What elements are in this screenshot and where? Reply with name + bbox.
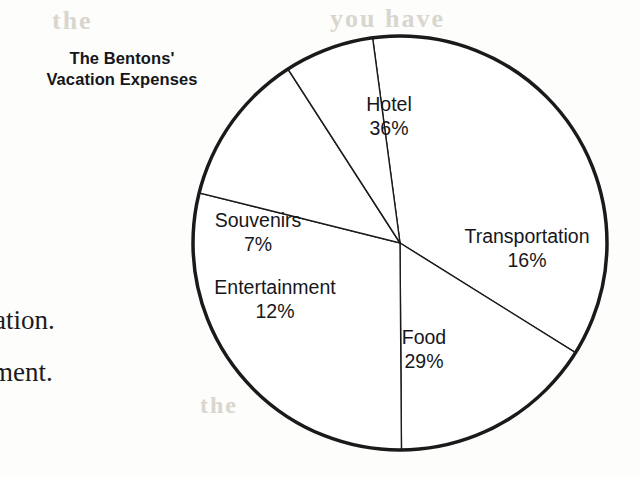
slice-label-entertainment: Entertainment12% [214,276,335,324]
slice-label-percent: 16% [464,249,589,273]
slice-label-percent: 29% [402,350,446,374]
slice-label-hotel: Hotel36% [366,93,412,141]
slice-label-name: Entertainment [214,276,335,298]
scanned-page: the you have c b the The Bentons' Vacati… [0,0,639,478]
slice-label-name: Souvenirs [215,209,302,231]
slice-label-food: Food29% [402,326,446,374]
slice-label-percent: 36% [366,117,412,141]
slice-label-percent: 7% [215,233,302,257]
slice-label-percent: 12% [214,300,335,324]
slice-label-souvenirs: Souvenirs7% [215,209,302,257]
slice-label-name: Hotel [366,93,412,115]
slice-label-name: Food [402,326,446,348]
slice-label-transportation: Transportation16% [464,225,589,273]
slice-label-name: Transportation [464,225,589,247]
